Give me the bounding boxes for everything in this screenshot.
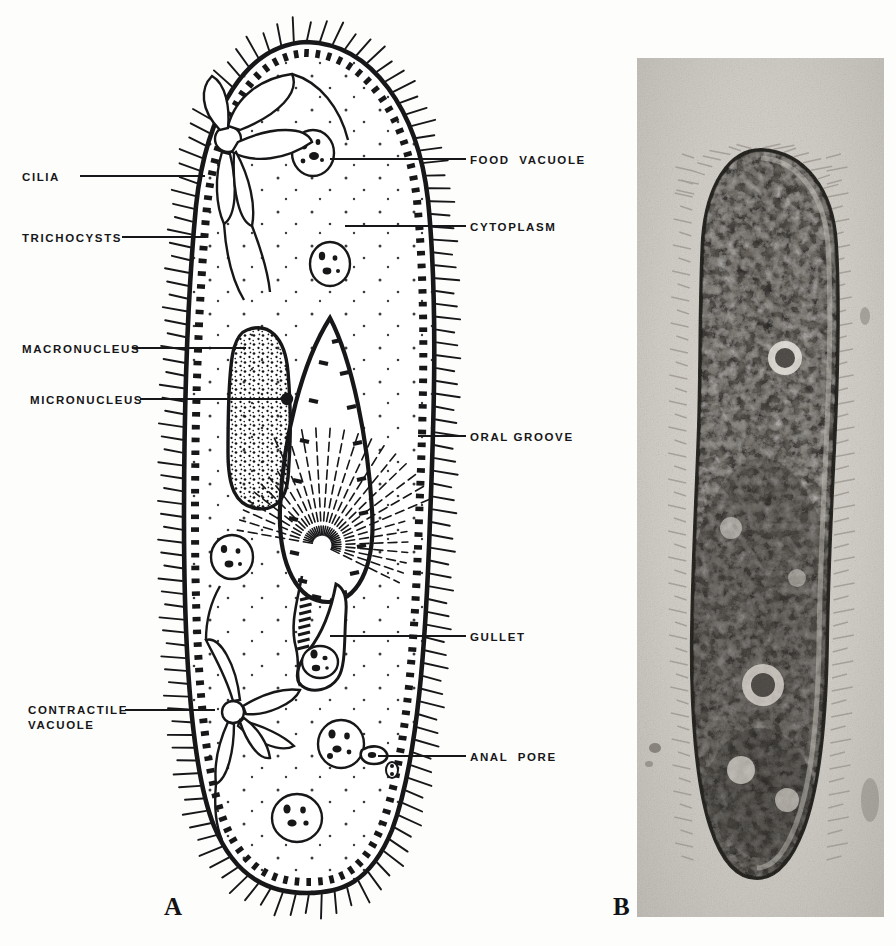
- oral-groove-dash: [289, 518, 298, 520]
- cilium: [180, 149, 202, 158]
- cilium: [436, 304, 457, 307]
- cilium: [435, 445, 453, 449]
- oral-groove-dash: [350, 572, 359, 574]
- cilium: [407, 108, 427, 114]
- cilium: [377, 863, 389, 876]
- cilium: [168, 333, 186, 337]
- cilium: [274, 893, 282, 915]
- cilium: [165, 320, 185, 324]
- cilium: [399, 816, 421, 826]
- cilium: [164, 566, 182, 569]
- oral-groove-dash: [357, 545, 366, 547]
- cilium: [185, 799, 203, 800]
- cilium: [307, 22, 311, 39]
- cilium: [436, 407, 454, 410]
- cilium: [435, 265, 456, 267]
- cilium: [347, 888, 351, 905]
- panel-b-photomicrograph: [637, 58, 884, 917]
- oral-groove-dash: [293, 480, 302, 482]
- cilium: [435, 458, 456, 462]
- cilium: [175, 217, 192, 222]
- cilium: [161, 475, 182, 478]
- cilium: [162, 591, 183, 594]
- cilium: [395, 828, 411, 837]
- cilium: [421, 148, 442, 151]
- panel-a-paramecium-diagram: [0, 0, 640, 946]
- label-anal-pore: ANAL PORE: [470, 750, 557, 765]
- label-cytoplasm: CYTOPLASM: [470, 220, 556, 235]
- cilium: [164, 488, 182, 491]
- cilium: [432, 214, 450, 216]
- oral-groove-dash: [347, 406, 356, 408]
- cilium: [306, 895, 309, 913]
- cilium: [434, 471, 457, 475]
- cilium: [190, 823, 210, 827]
- cilium: [222, 868, 237, 878]
- cilium: [210, 858, 229, 868]
- cilium: [335, 892, 337, 913]
- cilium: [419, 715, 436, 720]
- cilium: [164, 527, 182, 530]
- cilium: [437, 342, 458, 345]
- cilium: [359, 881, 370, 902]
- cilium: [164, 696, 188, 697]
- cilium: [357, 39, 371, 55]
- cilium: [406, 791, 422, 798]
- cilium: [418, 727, 438, 733]
- label-cilia: CILIA: [22, 170, 60, 185]
- cilium: [180, 163, 200, 170]
- food-vacuole: [318, 720, 364, 768]
- cilium: [164, 359, 185, 363]
- cilium: [432, 535, 453, 539]
- cilium: [160, 617, 184, 619]
- cilium: [245, 884, 258, 900]
- cilium: [191, 123, 209, 133]
- cilium: [200, 847, 222, 856]
- oral-groove-dash: [340, 372, 349, 374]
- label-micronucleus: MICRONUCLEUS: [30, 393, 143, 408]
- cilium: [416, 740, 439, 747]
- cilium: [165, 669, 186, 671]
- cilium: [427, 638, 444, 642]
- cilium: [230, 877, 247, 894]
- cilium: [158, 462, 182, 465]
- cilium: [172, 721, 190, 722]
- cilium: [261, 889, 270, 904]
- cilium: [166, 372, 184, 376]
- cilium: [161, 553, 182, 556]
- cilium: [386, 71, 404, 82]
- label-oral-groove: ORAL GROOVE: [470, 430, 574, 445]
- cilium: [434, 253, 452, 255]
- cilium: [345, 34, 355, 49]
- cilium: [189, 137, 205, 145]
- panel-letter-a: A: [164, 893, 182, 921]
- cilium: [367, 47, 384, 63]
- cilium: [437, 330, 455, 333]
- label-contractile-vacuole: CONTRACTILE VACUOLE: [28, 703, 128, 733]
- cilium: [170, 243, 190, 248]
- cilium: [417, 135, 435, 138]
- cilium: [429, 599, 446, 603]
- label-trichocysts: TRICHOCYSTS: [22, 231, 122, 246]
- cilium: [437, 355, 461, 358]
- cilium: [425, 663, 448, 668]
- cilium: [161, 514, 182, 517]
- cilium: [277, 24, 281, 44]
- cilium: [173, 204, 193, 209]
- oral-groove-dash: [309, 400, 318, 402]
- label-food-vacuole: FOOD VACUOLE: [470, 153, 586, 168]
- cilium: [430, 586, 453, 590]
- cilium: [384, 852, 403, 867]
- cilium: [412, 765, 432, 772]
- cilium: [162, 436, 183, 439]
- label-gullet: GULLET: [470, 630, 526, 645]
- cilium: [377, 61, 392, 71]
- cilium: [432, 522, 450, 526]
- cilium: [431, 201, 455, 202]
- cilium: [163, 630, 184, 632]
- oral-groove-dash: [353, 442, 362, 444]
- cilium: [433, 227, 454, 229]
- cilium: [161, 656, 185, 658]
- cilium: [422, 689, 442, 694]
- cilium: [321, 895, 322, 919]
